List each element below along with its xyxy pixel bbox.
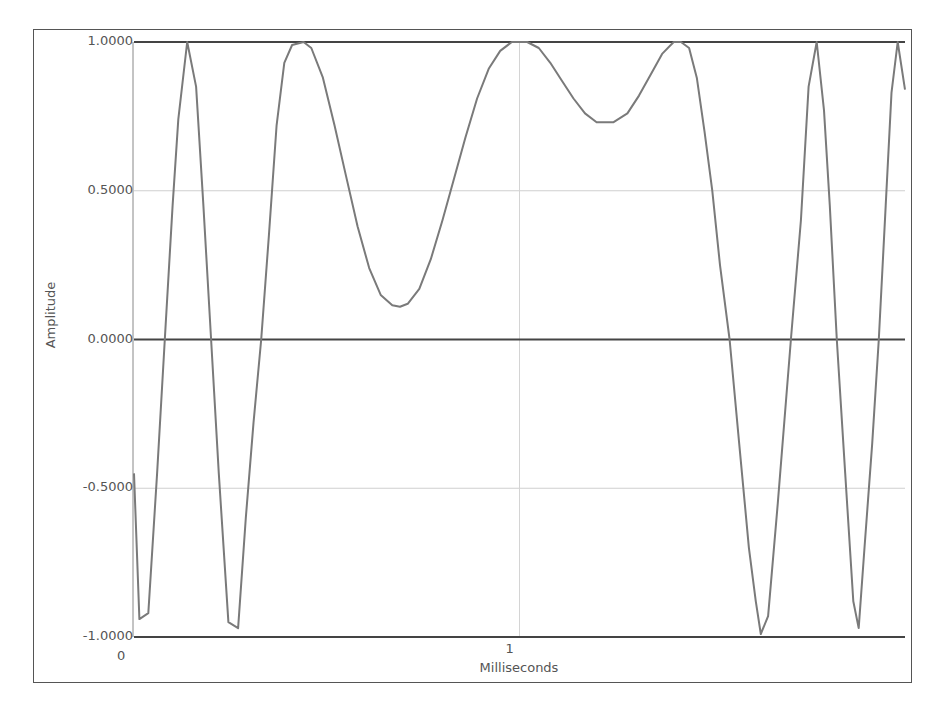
y-tick-label: -1.0000 [83, 628, 133, 643]
x-tick-label: 1 [506, 641, 514, 656]
plot-area [0, 0, 944, 718]
y-tick-label: 0.5000 [88, 182, 134, 197]
y-tick-label: 1.0000 [88, 33, 134, 48]
y-tick-label: 0.0000 [88, 331, 134, 346]
x-axis-title: Milliseconds [480, 660, 559, 675]
y-axis-title: Amplitude [43, 282, 58, 349]
x-tick-label: 0 [117, 648, 125, 663]
y-tick-label: -0.5000 [83, 479, 133, 494]
